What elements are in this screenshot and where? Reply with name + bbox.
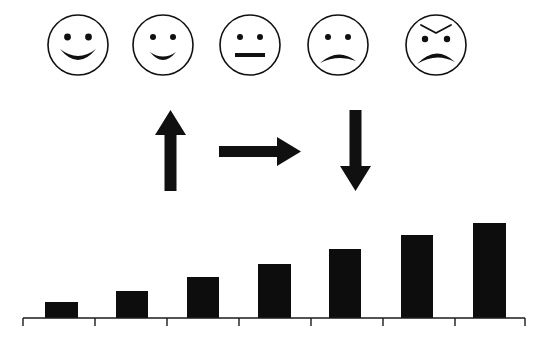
trend-arrow-svg (0, 95, 542, 200)
bar-5 (329, 249, 361, 318)
bar-1 (45, 302, 78, 318)
neutral-face (220, 15, 280, 75)
bar-4 (258, 264, 291, 318)
right-arrow (219, 137, 301, 166)
very-happy-face (48, 15, 108, 75)
happy-face (133, 15, 193, 75)
face-outline (406, 15, 466, 75)
bar-chart (0, 200, 542, 339)
trend-arrow-row (0, 95, 542, 200)
face-outline (48, 15, 108, 75)
sad-face (308, 15, 368, 75)
down-arrow (340, 110, 371, 191)
axis-group (23, 318, 525, 326)
mood-scale-row (0, 0, 542, 95)
face-outline (220, 15, 280, 75)
mood-scale-svg (0, 0, 542, 95)
right-eye-icon (170, 34, 176, 40)
bar-7 (473, 223, 506, 318)
right-eye-icon (257, 34, 263, 40)
face-outline (133, 15, 193, 75)
bar-3 (187, 277, 219, 318)
left-eye-icon (237, 34, 243, 40)
right-eye-icon (85, 34, 92, 41)
angry-face (406, 15, 466, 75)
right-eye-icon (345, 34, 351, 40)
flat-mouth-icon (235, 53, 265, 57)
right-eye-icon (444, 36, 450, 42)
up-arrow-icon (155, 110, 186, 191)
left-eye-icon (150, 34, 156, 40)
left-eye-icon (422, 36, 428, 42)
up-arrow (155, 110, 186, 191)
bar-6 (401, 235, 433, 318)
bar-2 (116, 291, 148, 318)
right-arrow-icon (219, 137, 301, 166)
left-eye-icon (64, 34, 71, 41)
figure-root (0, 0, 542, 339)
face-outline (308, 15, 368, 75)
down-arrow-icon (340, 110, 371, 191)
bar-chart-svg (0, 200, 542, 339)
left-eye-icon (325, 34, 331, 40)
bar-group (45, 223, 506, 318)
